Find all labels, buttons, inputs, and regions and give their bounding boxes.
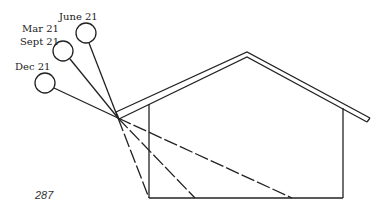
sun-june-icon xyxy=(76,23,96,43)
page-number: 287 xyxy=(35,189,53,201)
label-mar-21: Mar 21 xyxy=(22,24,59,34)
ray-equinox-dashed xyxy=(118,118,195,198)
roof-right-end xyxy=(367,118,370,122)
label-sept-21: Sept 21 xyxy=(20,37,59,47)
sun-december-icon xyxy=(35,73,55,93)
roof-outer xyxy=(116,52,370,118)
label-dec-21: Dec 21 xyxy=(15,62,50,72)
label-june-21: June 21 xyxy=(59,12,98,22)
roof-inner xyxy=(119,57,367,122)
ray-equinox-solid xyxy=(70,59,118,118)
